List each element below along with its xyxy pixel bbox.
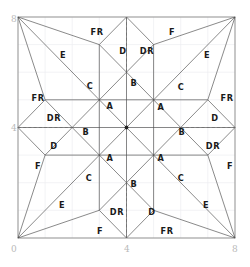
region-label: B (131, 179, 138, 189)
region-label: C (87, 81, 94, 91)
region-label: B (131, 78, 138, 88)
region-label: DR (140, 46, 154, 56)
region-label: C (86, 173, 93, 183)
region-label: D (148, 207, 155, 217)
region-label: F (169, 27, 175, 37)
axis-label-top-left: 8 (11, 14, 17, 24)
region-label: E (203, 200, 209, 210)
region-label: C (178, 173, 185, 183)
axis-label-bottom-left: 0 (11, 244, 17, 254)
region-label: E (60, 50, 66, 60)
region-label: E (204, 50, 210, 60)
axis-label-bottom-right: 8 (232, 244, 238, 254)
region-label: DR (206, 141, 220, 151)
region-label: FR (90, 27, 103, 37)
region-label: F (35, 161, 41, 171)
center-node (125, 126, 129, 130)
region-label: C (178, 82, 185, 92)
region-label: FR (31, 93, 44, 103)
region-label: D (119, 46, 126, 56)
region-label: B (179, 127, 186, 137)
mesh-region-diagram: 8 4 0 4 8 FRFEEDDRCCBFRFRAADRDBBDDRAAFFC… (0, 0, 250, 267)
region-label: E (59, 200, 65, 210)
region-label: A (158, 153, 165, 163)
region-label: FR (160, 226, 173, 236)
region-label-group: FRFEEDDRCCBFRFRAADRDBBDDRAAFFCCBEEDRDFFR (31, 27, 233, 236)
axis-label-bottom-center: 4 (124, 244, 130, 254)
region-label: A (107, 101, 114, 111)
region-label: DR (110, 207, 124, 217)
region-label: DR (47, 113, 61, 123)
region-label: B (83, 127, 90, 137)
region-label: D (50, 141, 57, 151)
region-label: D (211, 113, 218, 123)
region-label: A (158, 102, 165, 112)
region-label: FR (220, 93, 233, 103)
region-label: A (107, 153, 114, 163)
region-label: F (227, 161, 233, 171)
region-label: F (97, 226, 103, 236)
axis-label-middle-left: 4 (11, 123, 17, 133)
